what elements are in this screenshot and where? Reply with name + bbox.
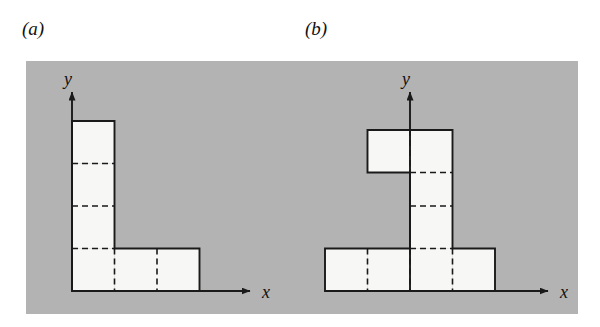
axis-b-y-label: y (400, 69, 410, 89)
cell-a-r0c2 (157, 249, 200, 292)
cell-a-r0c1 (115, 249, 158, 292)
cell-b-r0c0 (410, 249, 453, 292)
cell-a-r2c0 (72, 164, 115, 207)
cell-b-r1c0 (410, 206, 453, 249)
cell-b-r0c1 (453, 249, 496, 292)
cell-b-r3c0 (410, 130, 453, 173)
cell-b-r0cm2 (325, 249, 368, 292)
cell-a-r1c0 (72, 206, 115, 249)
figure-canvas: x y (0, 0, 600, 327)
axis-b-x-label: x (559, 282, 568, 302)
cell-a-r3c0 (72, 121, 115, 164)
cell-a-r0c0 (72, 249, 115, 292)
figure-root: (a) (b) (0, 0, 600, 327)
axis-a-x-label: x (261, 282, 270, 302)
axis-a-y-label: y (62, 69, 72, 89)
cell-b-r0cm1 (368, 249, 411, 292)
cell-b-r3cm1 (368, 130, 411, 173)
